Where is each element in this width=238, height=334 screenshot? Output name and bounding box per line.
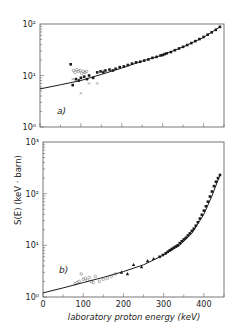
x-axis-label: laboratory proton energy (keV): [68, 312, 200, 322]
y-tick-label: 10⁰: [23, 123, 36, 132]
panel-a: 10⁰10¹10² a): [23, 20, 224, 132]
data-point-open: [102, 278, 105, 281]
chart-canvas: 10⁰10¹10² a) 10⁰10¹10²10³ 0100200300400 …: [0, 0, 238, 334]
panel-b-y-tick-labels: 10⁰10¹10²10³: [26, 138, 39, 302]
panel-b-x-tick-labels: 0100200300400: [40, 300, 211, 309]
panel-a-data: [40, 26, 221, 95]
data-point-square: [96, 71, 99, 74]
data-point-square: [71, 84, 74, 87]
data-point-square: [88, 74, 91, 77]
panel-b: 10⁰10¹10²10³ 0100200300400 b): [26, 138, 224, 309]
data-point-triangle: [146, 259, 149, 262]
panel-a-y-tick-labels: 10⁰10¹10²: [23, 20, 36, 132]
x-tick-label: 0: [40, 300, 45, 309]
data-point-cross: [80, 92, 82, 94]
panel-b-ticks: [43, 144, 224, 297]
panel-b-label: b): [59, 265, 68, 275]
y-tick-label: 10³: [26, 138, 39, 147]
panel-a-label: a): [57, 106, 66, 116]
panel-b-frame: [43, 142, 224, 297]
data-point-square: [69, 63, 72, 66]
fit-curve: [43, 175, 220, 293]
data-point-open: [98, 280, 101, 283]
data-point-open: [88, 276, 91, 279]
figure: 10⁰10¹10² a) 10⁰10¹10²10³ 0100200300400 …: [0, 0, 238, 334]
data-point-cross: [72, 78, 74, 80]
y-tick-label: 10²: [26, 190, 39, 199]
x-tick-label: 300: [156, 300, 171, 309]
data-point-square: [75, 78, 78, 81]
panel-a-frame: [40, 24, 224, 127]
fit-curve: [40, 27, 220, 89]
data-point-open: [74, 71, 77, 74]
x-tick-label: 100: [76, 300, 91, 309]
data-point-open: [106, 277, 109, 280]
y-tick-label: 10⁰: [26, 293, 39, 302]
data-point-open: [94, 275, 97, 278]
y-tick-label: 10²: [23, 20, 36, 29]
y-tick-label: 10¹: [26, 241, 39, 250]
data-point-square: [99, 70, 102, 73]
panel-b-data: [43, 174, 221, 293]
data-point-triangle: [126, 272, 129, 275]
y-axis-label: S(E) (keV · barn): [13, 155, 23, 225]
y-tick-label: 10¹: [23, 72, 36, 81]
data-point-cross: [88, 82, 90, 84]
x-tick-label: 400: [196, 300, 211, 309]
data-point-triangle: [132, 263, 135, 266]
x-tick-label: 200: [116, 300, 131, 309]
data-point-square: [83, 75, 86, 78]
data-point-square: [80, 77, 83, 80]
data-point-cross: [96, 82, 98, 84]
data-point-open: [80, 273, 83, 276]
data-point-square: [108, 68, 111, 71]
